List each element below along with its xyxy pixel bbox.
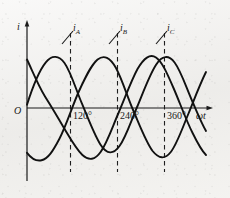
x-tick-label-120: 120° <box>73 111 92 121</box>
leader-line-ic <box>156 31 167 44</box>
curve-label-ic-subscript: C <box>170 28 175 36</box>
curve-label-ia: iA <box>73 23 80 36</box>
curve-label-ic: iC <box>167 23 174 36</box>
curve-label-ib: iB <box>120 23 127 36</box>
x-axis-label: ωt <box>196 111 206 121</box>
origin-label: O <box>14 106 21 116</box>
y-axis-label: i <box>17 22 20 32</box>
x-axis-arrowhead <box>207 106 214 111</box>
x-tick-label-240: 240° <box>120 111 139 121</box>
y-axis-arrowhead <box>25 20 30 27</box>
leader-line-ia <box>62 31 73 44</box>
curve-label-ia-subscript: A <box>76 28 80 36</box>
curve-ib <box>27 57 206 160</box>
dashed-gridlines <box>71 33 165 172</box>
waveform-figure: i ωt O 120° 240° 360° iA iB iC <box>0 0 230 198</box>
x-tick-label-360: 360° <box>167 111 186 121</box>
leader-line-ib <box>109 31 120 44</box>
curve-label-ib-subscript: B <box>123 28 127 36</box>
waveform-plot <box>0 0 230 198</box>
